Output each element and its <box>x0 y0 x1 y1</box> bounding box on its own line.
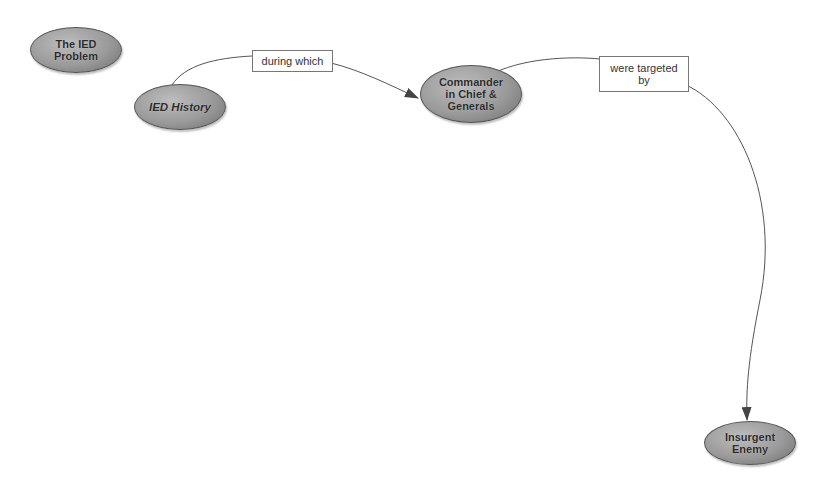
link-label-were-targeted-by[interactable]: were targeted by <box>599 56 689 92</box>
node-label: Commander in Chief & Generals <box>439 76 503 112</box>
link-label-text: during which <box>262 55 324 67</box>
connection-lines <box>0 0 821 487</box>
node-insurgent[interactable]: Insurgent Enemy <box>704 421 796 465</box>
edge-label-to-commander <box>331 63 418 98</box>
node-commander[interactable]: Commander in Chief & Generals <box>420 65 522 123</box>
node-ied-problem[interactable]: The IED Problem <box>30 27 122 73</box>
edge-label-to-insurgent <box>686 85 765 420</box>
node-ied-history[interactable]: IED History <box>134 84 226 130</box>
link-label-text: were targeted by <box>610 62 677 86</box>
edge-history-to-label <box>172 56 252 85</box>
node-label: IED History <box>149 101 211 113</box>
node-label: The IED Problem <box>54 38 98 62</box>
node-label: Insurgent Enemy <box>725 431 775 455</box>
link-label-during-which[interactable]: during which <box>252 50 333 72</box>
